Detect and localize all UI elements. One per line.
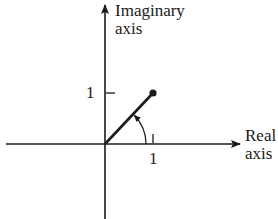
imaginary-axis-label-line1: Imaginary (115, 1, 185, 20)
complex-plane-diagram: Imaginary axis Real axis 1 1 (0, 0, 278, 219)
real-axis-label-line1: Real (245, 126, 276, 145)
imaginary-tick-label: 1 (86, 84, 95, 102)
real-axis-label: Real axis (245, 127, 276, 163)
real-tick-label: 1 (149, 150, 158, 168)
real-axis-label-line2: axis (245, 144, 272, 163)
angle-arc-icon (135, 116, 147, 145)
vector-endpoint-dot (149, 89, 156, 96)
imaginary-axis-label-line2: axis (115, 19, 142, 38)
imaginary-axis-label: Imaginary axis (115, 2, 185, 38)
